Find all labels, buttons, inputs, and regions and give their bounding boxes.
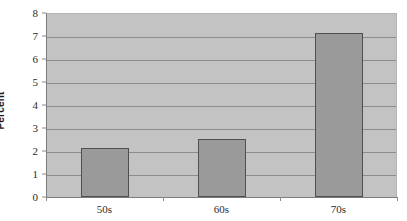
x-axis-tick-label: 70s	[331, 203, 346, 215]
y-axis-tick-label: 7	[33, 31, 39, 42]
y-axis-tick-label: 5	[33, 77, 39, 88]
y-axis-tick-label: 3	[33, 123, 39, 134]
x-axis-tick-label: 50s	[97, 203, 112, 215]
x-axis-tick-mark	[280, 197, 281, 201]
y-axis-line	[46, 13, 47, 198]
y-axis-tick-label: 2	[33, 146, 39, 157]
y-axis-tick-label: 4	[33, 100, 39, 111]
x-axis-tick-mark	[46, 197, 47, 201]
x-axis-tick-labels: 50s60s70s	[46, 197, 397, 221]
bar-chart: Percent 012345678 50s60s70s	[0, 0, 407, 221]
plot-area	[46, 13, 397, 197]
bar	[198, 139, 246, 197]
x-axis-tick-label: 60s	[214, 203, 229, 215]
y-axis-tick-label: 1	[33, 169, 39, 180]
y-axis-tick-labels: 012345678	[22, 13, 42, 197]
x-axis-tick-mark	[163, 197, 164, 201]
y-axis-tick-label: 8	[33, 8, 39, 19]
bar	[81, 148, 129, 197]
bars-group	[46, 14, 396, 197]
y-axis-tick-label: 6	[33, 54, 39, 65]
y-axis-tick-label: 0	[33, 192, 39, 203]
bar	[315, 33, 363, 197]
x-axis-tick-mark	[397, 197, 398, 201]
